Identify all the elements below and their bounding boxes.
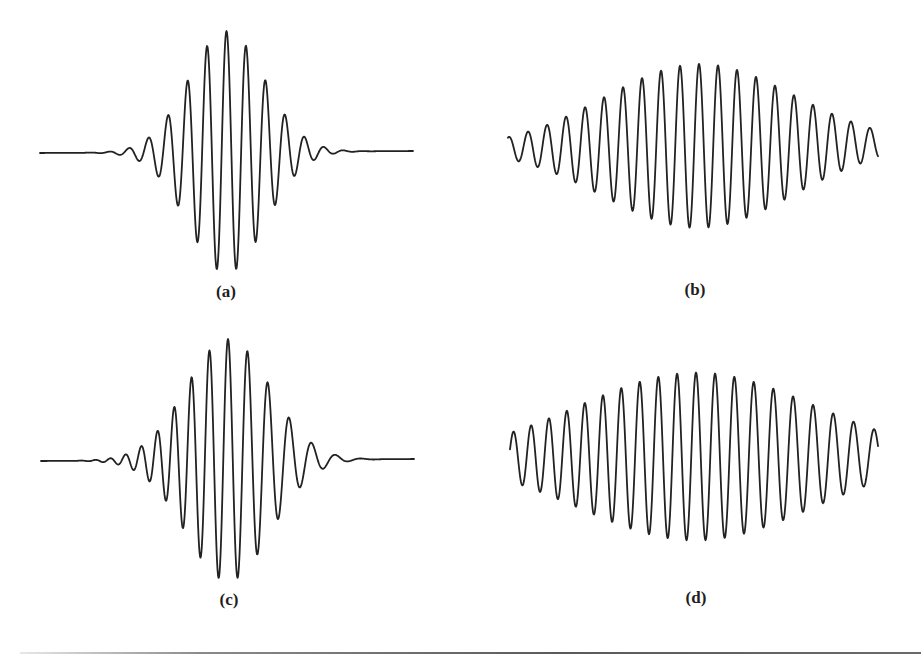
wave-packet-c [41,339,414,578]
wave-packet-a [40,31,413,269]
wave-packet-figure: (a) (b) (c) (d) [0,0,921,656]
wave-packet-d [510,372,878,540]
waveform-canvas [0,0,921,656]
panel-label-d: (d) [686,588,707,608]
wave-packet-b [508,64,878,228]
panel-label-a: (a) [216,282,236,302]
bottom-divider [20,652,921,654]
panel-label-c: (c) [220,590,239,610]
panel-label-b: (b) [685,280,706,300]
